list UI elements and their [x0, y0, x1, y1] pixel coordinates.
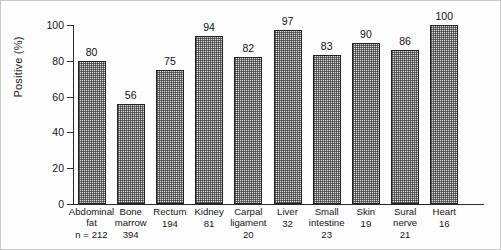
x-axis-sample-size: 21 [379, 230, 431, 241]
figure-bar-chart: Positive (%) 020406080100 80567594829783… [0, 0, 501, 250]
x-axis-sample-size: 16 [418, 219, 470, 230]
bar-group: 97 [274, 25, 302, 204]
x-axis-labels: Abdominal fatn = 212Bone marrow394Rectum… [73, 207, 484, 250]
bar-value-label: 82 [242, 42, 254, 54]
bar-group: 100 [430, 25, 458, 204]
bar [78, 61, 106, 204]
bar-value-label: 56 [125, 89, 137, 101]
bar [274, 30, 302, 204]
bar [352, 43, 380, 204]
bar [234, 57, 262, 204]
y-tick-label: 40 [52, 126, 64, 138]
y-tick-label: 60 [52, 91, 64, 103]
bar [117, 104, 145, 204]
bar [313, 55, 341, 204]
bar [430, 25, 458, 204]
bar-value-label: 75 [164, 55, 176, 67]
y-tick-label: 20 [52, 162, 64, 174]
x-axis-sample-size: 23 [301, 230, 353, 241]
y-tick-label: 100 [46, 19, 64, 31]
x-axis-label-group: Heart16 [418, 207, 470, 230]
x-axis-sample-size: 394 [105, 230, 157, 241]
bar-group: 90 [352, 25, 380, 204]
bar-value-label: 86 [399, 35, 411, 47]
bar-series: 805675948297839086100 [73, 25, 484, 205]
bar-value-label: 100 [436, 10, 454, 22]
y-axis-title: Positive (%) [12, 12, 24, 122]
y-tick-label: 0 [58, 198, 64, 210]
x-axis-category-label: Heart [418, 207, 470, 218]
bar [391, 50, 419, 204]
bar-value-label: 80 [86, 46, 98, 58]
bar-value-label: 97 [282, 15, 294, 27]
bar-group: 75 [156, 25, 184, 204]
bar [195, 36, 223, 204]
bar-group: 80 [78, 25, 106, 204]
bar-group: 86 [391, 25, 419, 204]
bar-group: 83 [313, 25, 341, 204]
bar-group: 94 [195, 25, 223, 204]
bar-value-label: 90 [360, 28, 372, 40]
bar [156, 70, 184, 204]
bar-value-label: 94 [203, 21, 215, 33]
bar-group: 56 [117, 25, 145, 204]
plot-area: 020406080100 805675948297839086100 [73, 25, 484, 205]
bar-group: 82 [234, 25, 262, 204]
y-tick-label: 80 [52, 55, 64, 67]
bar-value-label: 83 [321, 40, 333, 52]
x-axis-sample-size: 20 [222, 230, 274, 241]
